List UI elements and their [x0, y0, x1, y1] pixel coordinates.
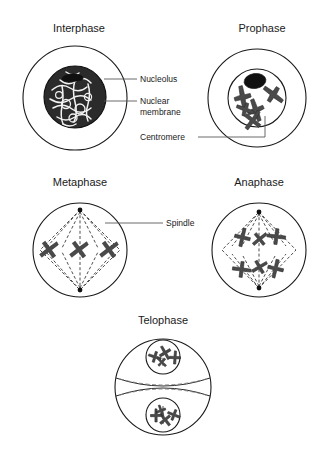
phase-title-metaphase: Metaphase	[53, 176, 107, 188]
metaphase-pole-top	[78, 208, 83, 213]
phase-cell-telophase	[115, 339, 211, 435]
anaphase-pole-top	[257, 210, 262, 215]
phase-title-anaphase: Anaphase	[234, 176, 284, 188]
callout-label-nuclear-membrane-line1: Nuclear	[140, 96, 169, 106]
phase-cell-interphase	[23, 46, 127, 150]
phase-title-telophase: Telophase	[138, 314, 188, 326]
phase-cell-prophase	[208, 49, 306, 147]
phase-cell-metaphase	[33, 203, 127, 297]
callout-label-spindle: Spindle	[166, 218, 195, 228]
callout-label-centromere: Centromere	[140, 132, 185, 142]
callout-label-nuclear-membrane-line2: membrane	[140, 107, 181, 117]
phase-cell-anaphase	[212, 203, 306, 297]
anaphase-pole-bottom	[257, 286, 262, 291]
phase-title-interphase: Interphase	[53, 22, 105, 34]
callout-label-nucleolus: Nucleolus	[140, 74, 177, 84]
phase-title-prophase: Prophase	[238, 22, 285, 34]
metaphase-pole-bottom	[78, 288, 83, 293]
mitosis-diagram: Interphase Prophase Metaphase Anaphase T…	[0, 0, 327, 452]
mitosis-illustration: Interphase Prophase Metaphase Anaphase T…	[0, 0, 327, 452]
